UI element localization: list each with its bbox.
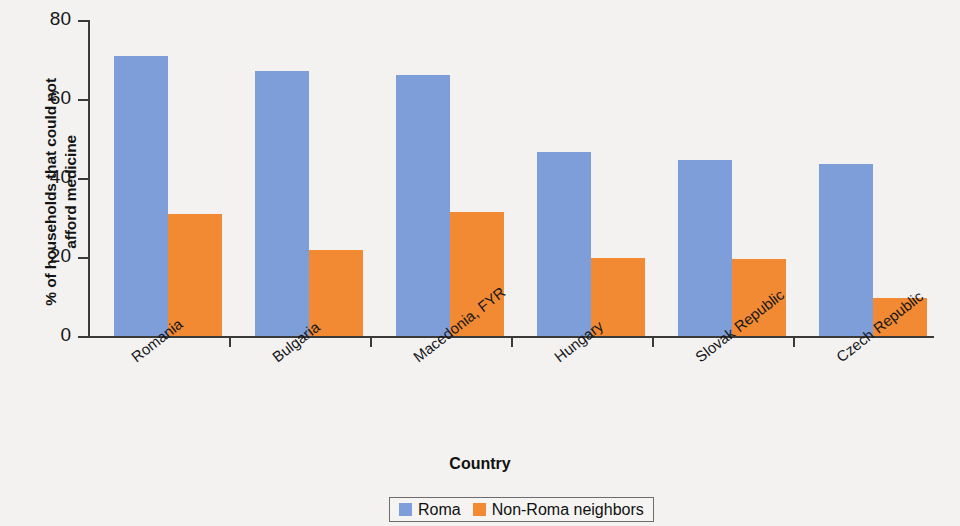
x-axis-tick [511, 337, 513, 347]
y-axis-tick: 80 [78, 20, 88, 22]
legend-item: Non-Roma neighbors [473, 501, 644, 519]
x-axis-tick [652, 337, 654, 347]
y-axis-tick: 20 [78, 257, 88, 259]
y-axis-tick-label: 60 [50, 87, 71, 109]
bar-roma-romania [114, 56, 168, 336]
bar-roma-bulgaria [255, 71, 309, 336]
legend-swatch-icon [399, 503, 412, 516]
legend-item: Roma [399, 501, 461, 519]
y-axis-line [88, 20, 90, 337]
legend-swatch-icon [473, 503, 486, 516]
y-axis-tick: 60 [78, 99, 88, 101]
bar-roma-czech-republic [819, 164, 873, 336]
chart-legend: RomaNon-Roma neighbors [389, 497, 654, 522]
y-axis-tick-label: 80 [50, 8, 71, 30]
plot-area: 020406080 [88, 20, 934, 336]
x-axis-title: Country [0, 455, 960, 473]
legend-label: Roma [418, 501, 461, 519]
y-axis-tick-label: 20 [50, 245, 71, 267]
bar-non-roma-neighbors-bulgaria [309, 250, 363, 336]
legend-label: Non-Roma neighbors [492, 501, 644, 519]
y-axis-title-line-1: % of households that could not [42, 78, 59, 306]
y-axis-tick: 40 [78, 178, 88, 180]
x-axis-tick [370, 337, 372, 347]
x-axis-tick [229, 337, 231, 347]
y-axis-title-line-2: afford medicine [62, 135, 79, 249]
y-axis-tick-label: 0 [60, 324, 71, 346]
y-axis-tick-label: 40 [50, 166, 71, 188]
y-axis-title: % of households that could not afford me… [41, 27, 81, 357]
x-axis-tick [793, 337, 795, 347]
bar-roma-macedonia-fyr [396, 75, 450, 336]
y-axis-tick: 0 [78, 336, 88, 338]
bar-roma-hungary [537, 152, 591, 336]
x-axis-line [78, 336, 934, 338]
bar-roma-slovak-republic [678, 160, 732, 336]
bar-chart: % of households that could not afford me… [0, 0, 960, 526]
